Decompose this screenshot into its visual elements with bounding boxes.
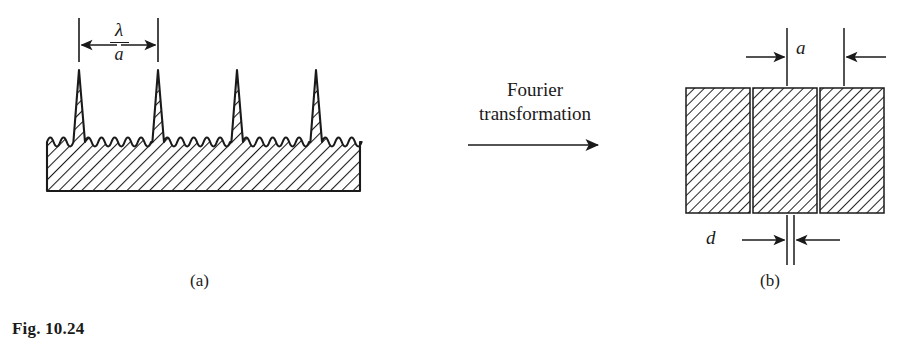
fraction-bar xyxy=(110,42,129,43)
panel-a-profile xyxy=(47,70,362,191)
fourier-line-1: Fourier xyxy=(440,78,630,102)
figure-caption: Fig. 10.24 xyxy=(12,320,84,337)
bar-1 xyxy=(686,88,750,213)
figure-10-24: λ a Fourier transformation a d (a) (b) F… xyxy=(0,0,912,350)
bar-3 xyxy=(820,88,884,213)
bar-2 xyxy=(753,88,817,213)
dimension-d-label: d xyxy=(706,228,716,247)
panel-b-sublabel: (b) xyxy=(760,272,780,289)
lambda-symbol: λ xyxy=(104,20,134,41)
panel-b-bars xyxy=(686,88,884,213)
a-symbol: a xyxy=(104,44,134,65)
panel-a-sublabel: (a) xyxy=(190,272,209,289)
dimension-a-label: a xyxy=(796,38,806,57)
figure-canvas xyxy=(0,0,912,350)
fourier-line-2: transformation xyxy=(440,102,630,126)
dimension-label-lambda-over-a: λ a xyxy=(104,20,134,65)
dimension-d xyxy=(742,215,840,265)
dimension-a xyxy=(746,28,886,86)
fourier-transformation-label: Fourier transformation xyxy=(440,78,630,126)
